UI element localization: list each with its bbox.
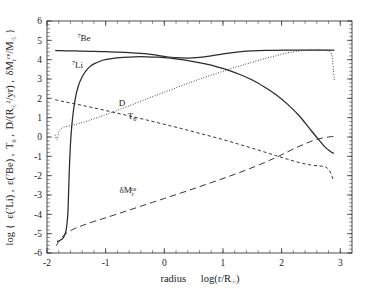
y-tick-labels: -6-5-4-3-2-10123456 bbox=[34, 16, 42, 258]
y-tick-label: -1 bbox=[34, 152, 42, 162]
y-tick-label: -5 bbox=[34, 229, 42, 239]
x-axis-title: radius log(r/R☉) bbox=[160, 273, 240, 285]
x-tick-labels: -2-10123 bbox=[43, 258, 343, 268]
curve-label-T6: T6 bbox=[128, 111, 137, 122]
x-tick-label: 1 bbox=[221, 258, 226, 268]
axes-frame bbox=[47, 21, 352, 253]
y-tick-label: 0 bbox=[37, 132, 42, 142]
curve-label-dMce: δMrce bbox=[120, 185, 137, 197]
plot-frame bbox=[47, 21, 352, 253]
x-tick-label: 3 bbox=[338, 258, 343, 268]
y-tick-label: 4 bbox=[37, 55, 42, 65]
y-tick-label: -6 bbox=[34, 248, 42, 258]
svg-text:log { ε(7Li) ,: log { ε(7Li) , ε(7Be) , T6 , D/(R☉2/yr) … bbox=[4, 29, 17, 246]
curve-label-7Li: 7Li bbox=[72, 59, 84, 70]
y-tick-label: 5 bbox=[37, 36, 42, 46]
x-axis-title-text: radius bbox=[160, 273, 186, 284]
series-D bbox=[55, 50, 334, 140]
data-series-group bbox=[55, 50, 334, 246]
x-tick-label: 0 bbox=[162, 258, 167, 268]
y-tick-label: 3 bbox=[37, 74, 42, 84]
series-7Be bbox=[55, 50, 334, 58]
curve-label-7Be: 7Be bbox=[77, 32, 90, 43]
x-tick-label: 2 bbox=[279, 258, 284, 268]
x-tick-label: -2 bbox=[43, 258, 51, 268]
y-tick-label: 1 bbox=[37, 113, 42, 123]
y-tick-label: -2 bbox=[34, 171, 42, 181]
y-tick-label: 6 bbox=[37, 16, 42, 26]
curve-label-D: D bbox=[119, 98, 126, 108]
y-tick-label: 2 bbox=[37, 94, 42, 104]
y-tick-label: -3 bbox=[34, 190, 42, 200]
series-dMce bbox=[56, 136, 334, 245]
svg-text:radius log(r/R☉): radius log(r/R☉) bbox=[160, 273, 240, 285]
chart-canvas: -2-10123 -6-5-4-3-2-10123456 7Be7LiDT6δM… bbox=[0, 0, 367, 289]
x-tick-label: -1 bbox=[102, 258, 110, 268]
figure-panel: -2-10123 -6-5-4-3-2-10123456 7Be7LiDT6δM… bbox=[0, 0, 367, 289]
series-T6 bbox=[55, 100, 334, 182]
y-axis-title: log { ε(7Li) , ε(7Be) , T6 , D/(R☉2/yr) … bbox=[4, 29, 17, 246]
y-tick-label: -4 bbox=[34, 210, 42, 220]
